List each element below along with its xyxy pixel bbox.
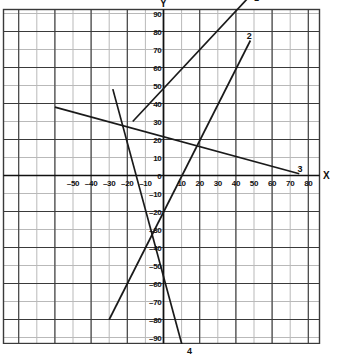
x-tick-30: 30 xyxy=(214,179,222,188)
y-tick-40: 40 xyxy=(153,99,161,108)
series-label-4: 4 xyxy=(187,346,192,356)
y-tick--50: –50 xyxy=(149,261,161,270)
x-tick-10: 10 xyxy=(177,179,185,188)
y-axis-label: Y xyxy=(160,0,167,9)
y-tick-20: 20 xyxy=(153,135,161,144)
x-tick--10: –10 xyxy=(139,179,151,188)
x-tick--20: –20 xyxy=(121,179,133,188)
y-tick--60: –60 xyxy=(149,279,161,288)
y-tick-70: 70 xyxy=(153,45,161,54)
x-tick-50: 50 xyxy=(250,179,258,188)
y-tick-30: 30 xyxy=(153,117,161,126)
y-tick-50: 50 xyxy=(153,81,161,90)
x-axis-label: X xyxy=(323,170,330,181)
series-label-2: 2 xyxy=(247,31,252,41)
y-tick--40: –40 xyxy=(149,243,161,252)
y-tick-60: 60 xyxy=(153,63,161,72)
series-label-1: 1 xyxy=(254,0,259,3)
y-tick-10: 10 xyxy=(153,153,161,162)
y-tick--20: –20 xyxy=(149,207,161,216)
x-tick--30: –30 xyxy=(103,179,115,188)
grid-major xyxy=(4,10,320,344)
x-tick-70: 70 xyxy=(286,179,294,188)
y-tick--70: –70 xyxy=(149,297,161,306)
x-tick-80: 80 xyxy=(304,179,312,188)
y-tick--80: –80 xyxy=(149,315,161,324)
x-tick--50: –50 xyxy=(67,179,79,188)
x-tick-60: 60 xyxy=(268,179,276,188)
y-tick--90: –90 xyxy=(149,333,161,342)
y-tick-80: 80 xyxy=(153,27,161,36)
x-tick-20: 20 xyxy=(196,179,204,188)
y-tick--10: –10 xyxy=(149,189,161,198)
x-tick--40: –40 xyxy=(85,179,97,188)
y-tick-0: 0 xyxy=(157,171,161,180)
y-tick--30: –30 xyxy=(149,225,161,234)
series-label-3: 3 xyxy=(297,164,302,174)
y-tick-90: 90 xyxy=(153,9,161,18)
x-tick-40: 40 xyxy=(232,179,240,188)
